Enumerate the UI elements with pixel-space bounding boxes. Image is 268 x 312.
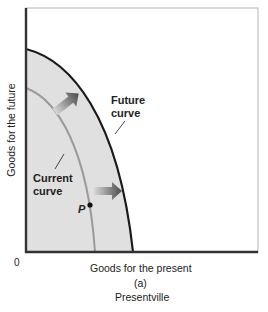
origin-label: 0 (14, 256, 20, 269)
future-curve-label-line1: Future (111, 94, 145, 107)
point-p-marker (87, 202, 92, 207)
current-curve-label-line1: Current (33, 172, 73, 185)
panel-letter: (a) (134, 277, 147, 290)
future-curve-label-line2: curve (111, 107, 140, 120)
x-axis-label: Goods for the present (90, 262, 192, 275)
panel-name: Presentville (115, 291, 169, 304)
ppf-diagram: Future curve Current curve P 0 Goods for… (0, 0, 268, 312)
current-curve-label-line2: curve (33, 185, 62, 198)
point-p-label: P (78, 203, 85, 216)
y-axis-label: Goods for the future (5, 83, 18, 176)
